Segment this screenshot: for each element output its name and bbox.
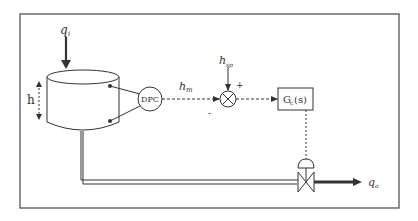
outlet-pipe [81, 131, 362, 186]
minus-sign: - [208, 108, 211, 118]
level-control-diagram: q i h DPC h m h sp + - G c (s) [0, 0, 418, 221]
svg-text:i: i [68, 30, 70, 38]
summing-junction [220, 91, 236, 107]
plus-sign: + [236, 80, 244, 90]
level-label: h [27, 93, 35, 107]
inflow-label: q [60, 23, 68, 37]
svg-text:DPC: DPC [141, 95, 159, 104]
svg-text:(s): (s) [294, 94, 307, 105]
control-valve [298, 159, 314, 192]
svg-text:sp: sp [226, 61, 233, 69]
outflow-label: q [368, 176, 375, 189]
svg-text:m: m [186, 86, 193, 94]
inflow-arrow [61, 37, 71, 69]
svg-text:o: o [375, 182, 379, 189]
level-indicator [36, 81, 42, 120]
